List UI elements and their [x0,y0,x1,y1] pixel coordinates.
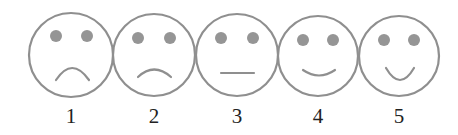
right-eye-icon [408,34,420,46]
left-eye-icon [50,30,62,42]
rating-option-4[interactable]: 4 [278,16,358,128]
face-outline [196,14,278,96]
right-eye-icon [164,32,176,44]
rating-option-5[interactable]: 5 [359,16,439,128]
face-outline [29,13,113,97]
left-eye-icon [297,34,309,46]
rating-option-1[interactable]: 1 [29,13,113,128]
rating-label: 5 [394,104,405,128]
rating-option-3[interactable]: 3 [196,14,278,128]
face-outline [113,14,195,96]
face-outline [278,16,358,96]
right-eye-icon [81,30,93,42]
smiley-rating-scale: 1 2 3 4 5 [0,0,458,135]
rating-label: 2 [149,104,160,128]
left-eye-icon [378,34,390,46]
rating-label: 4 [313,104,324,128]
right-eye-icon [327,34,339,46]
right-eye-icon [247,32,259,44]
left-eye-icon [215,32,227,44]
face-outline [359,16,439,96]
rating-label: 3 [232,104,243,128]
left-eye-icon [132,32,144,44]
rating-label: 1 [66,104,77,128]
rating-option-2[interactable]: 2 [113,14,195,128]
